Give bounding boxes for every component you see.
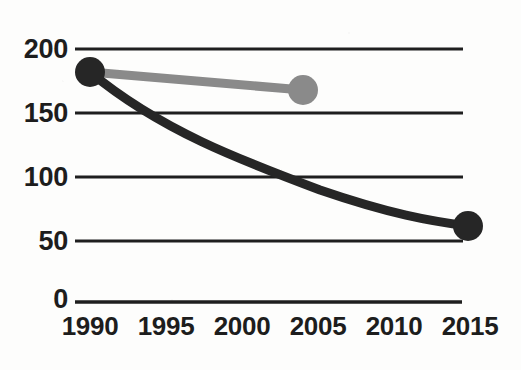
dark-series-marker-end: [453, 211, 483, 241]
y-tick-label-200: 200: [22, 34, 68, 65]
y-tick-label-150: 150: [22, 98, 68, 129]
y-tick-label-0: 0: [22, 284, 68, 315]
x-tick-label-2000: 2000: [214, 311, 271, 342]
x-tick-label-1990: 1990: [62, 311, 119, 342]
dark-series-marker-start: [75, 57, 105, 87]
series-gray-series: [79, 61, 318, 105]
gray-series-line: [90, 72, 303, 90]
x-tick-label-2015: 2015: [442, 311, 499, 342]
y-tick-label-50: 50: [22, 226, 68, 257]
x-tick-label-1995: 1995: [138, 311, 195, 342]
y-tick-label-100: 100: [22, 162, 68, 193]
x-tick-label-2005: 2005: [290, 311, 347, 342]
x-tick-label-2010: 2010: [366, 311, 423, 342]
line-chart: 200 150 100 50 0 1990 1995 2000 2005 201…: [0, 0, 521, 370]
gray-series-marker-end: [288, 75, 318, 105]
dark-series-line: [90, 72, 468, 226]
